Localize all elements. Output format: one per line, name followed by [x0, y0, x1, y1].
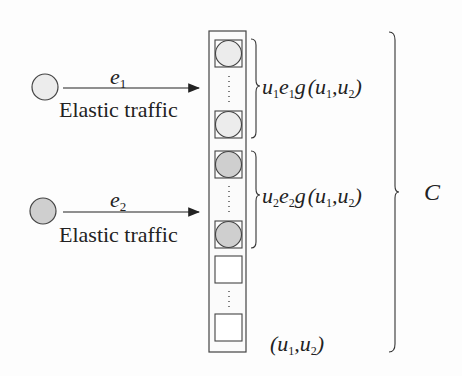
caption-flow-1: Elastic traffic: [59, 97, 178, 122]
rate-label-1: e1: [110, 64, 126, 91]
link-outer-box: [209, 31, 246, 352]
source-node-2: [30, 198, 56, 224]
flow1-packet: [216, 112, 242, 138]
flow2-packet: [216, 152, 242, 178]
brace-group-2: [251, 151, 260, 248]
flow2-packet: [216, 222, 242, 248]
flow-1: e1 Elastic traffic: [32, 64, 199, 122]
free-slot: [215, 256, 242, 283]
label-group-2: u2e2g(u1,u2): [262, 183, 362, 210]
state-label: (u1,u2): [270, 331, 324, 358]
label-group-1: u1e1g(u1,u2): [262, 74, 362, 101]
flow1-packet: [216, 41, 242, 67]
free-slot: [215, 314, 242, 341]
link-buffer: [209, 31, 246, 352]
diagram-canvas: e1 Elastic traffic e2 Elastic traffic u1…: [0, 0, 462, 376]
caption-flow-2: Elastic traffic: [59, 222, 178, 247]
flow-2: e2 Elastic traffic: [30, 187, 199, 247]
brace-capacity: [389, 32, 399, 352]
diagram-svg: e1 Elastic traffic e2 Elastic traffic u1…: [0, 0, 462, 376]
capacity-label: C: [424, 179, 441, 205]
brace-group-1: [251, 39, 260, 138]
source-node-1: [32, 74, 58, 100]
rate-label-2: e2: [110, 187, 126, 214]
